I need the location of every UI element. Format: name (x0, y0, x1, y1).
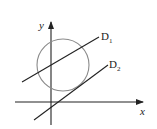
d2-label: D2 (109, 58, 121, 73)
line-d2 (34, 65, 108, 120)
geometry-figure: y x D1 D2 (0, 0, 157, 129)
diagram-canvas: y x D1 D2 (0, 0, 157, 129)
x-axis-label: x (139, 105, 145, 117)
d1-label: D1 (101, 30, 113, 45)
y-axis-label: y (38, 19, 44, 31)
